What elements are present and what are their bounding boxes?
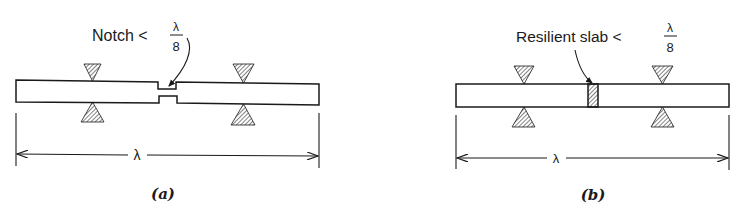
notch-label: Notch < λ 8 (92, 20, 183, 54)
notched-beam (16, 80, 319, 105)
support-top-left-icon (514, 66, 534, 84)
resilient-slab-label: Resilient slab < λ 8 (516, 21, 677, 55)
diagram-canvas: Notch < λ 8 λ (a) Resilient slab < λ 8 (0, 0, 741, 219)
support-bottom-right-icon (231, 104, 255, 125)
wavelength-label: λ (134, 147, 141, 163)
wavelength-label: λ (553, 151, 560, 166)
fraction-numerator: λ (173, 20, 179, 34)
support-top-right-icon (652, 66, 673, 84)
slab-leader-arrow (575, 50, 592, 83)
support-bottom-right-icon (651, 107, 674, 127)
caption-b: (b) (581, 186, 606, 204)
notch-label-text: Notch < (92, 27, 148, 44)
support-bottom-left-icon (81, 102, 104, 122)
panel-b: Resilient slab < λ 8 λ (b) (456, 21, 729, 204)
fraction-denominator: 8 (172, 39, 179, 54)
resilient-slab-label-text: Resilient slab < (516, 28, 622, 45)
fraction-numerator: λ (667, 21, 673, 35)
caption-a: (a) (151, 185, 175, 203)
fraction-denominator: 8 (666, 40, 673, 55)
dimension-line-right (147, 155, 318, 156)
dimension-line-left (17, 154, 128, 155)
resilient-slab (588, 84, 598, 107)
support-top-right-icon (233, 64, 254, 83)
support-bottom-left-icon (512, 107, 535, 127)
panel-a: Notch < λ 8 λ (a) (16, 20, 319, 203)
support-top-left-icon (84, 64, 101, 81)
